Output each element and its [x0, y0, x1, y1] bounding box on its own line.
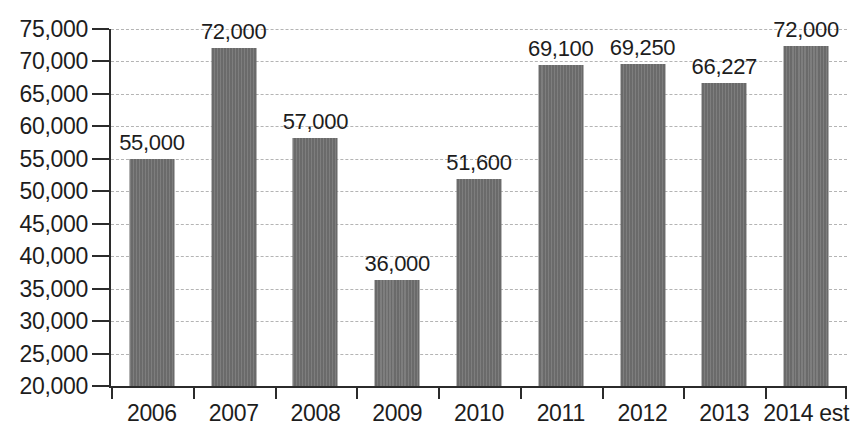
y-axis-tick-label: 55,000	[19, 145, 88, 172]
bar-chart: 75,00070,00065,00060,00055,00050,00045,0…	[0, 0, 851, 445]
bar-group: 51,600	[438, 29, 520, 386]
bar[interactable]	[784, 46, 829, 386]
y-axis-tick-label: 30,000	[19, 308, 88, 335]
bar-value-label: 72,000	[201, 19, 267, 45]
y-axis-tick-mark	[92, 158, 109, 160]
y-axis-tick-mark	[92, 28, 109, 30]
x-axis-tick-mark	[193, 386, 195, 399]
bar-group: 72,000	[765, 29, 847, 386]
y-axis-tick-label: 50,000	[19, 178, 88, 205]
x-axis-ticks	[111, 386, 847, 400]
y-axis-tick-mark	[92, 93, 109, 95]
x-axis-tick-mark	[520, 386, 522, 399]
x-axis-tick-mark	[845, 386, 847, 399]
y-axis-tick-label: 70,000	[19, 48, 88, 75]
y-axis-tick-mark	[92, 385, 109, 387]
y-axis-tick-label: 45,000	[19, 210, 88, 237]
bars-layer: 55,00072,00057,00036,00051,60069,10069,2…	[111, 29, 847, 386]
y-axis-tick-mark	[92, 255, 109, 257]
y-axis-tick-label: 40,000	[19, 243, 88, 270]
bar-group: 57,000	[275, 29, 357, 386]
y-axis-tick-mark	[92, 190, 109, 192]
y-axis-tick-mark	[92, 223, 109, 225]
y-axis-tick-label: 75,000	[19, 16, 88, 43]
x-axis-tick-mark	[275, 386, 277, 399]
bar-value-label: 66,227	[692, 54, 758, 80]
y-axis-tick-mark	[92, 320, 109, 322]
y-axis-tick-label: 60,000	[19, 113, 88, 140]
x-axis-tick-label: 2009	[372, 400, 422, 427]
y-axis-tick-label: 35,000	[19, 275, 88, 302]
x-axis-tick-label: 2013	[699, 400, 749, 427]
bar[interactable]	[538, 65, 583, 386]
bar-value-label: 69,100	[528, 36, 594, 62]
x-axis-tick-mark	[438, 386, 440, 399]
bar-group: 72,000	[193, 29, 275, 386]
y-axis-tick-mark	[92, 60, 109, 62]
bar-value-label: 69,250	[610, 35, 676, 61]
bar-group: 69,100	[520, 29, 602, 386]
x-axis-tick-label: 2010	[454, 400, 504, 427]
bar-value-label: 51,600	[446, 150, 512, 176]
x-axis-tick-label: 2007	[209, 400, 259, 427]
x-axis-tick-mark	[356, 386, 358, 399]
bar-value-label: 55,000	[119, 130, 185, 156]
bar[interactable]	[456, 179, 501, 386]
y-axis-tick-label: 65,000	[19, 80, 88, 107]
bar-group: 69,250	[602, 29, 684, 386]
bar[interactable]	[211, 48, 256, 386]
x-axis-tick-mark	[602, 386, 604, 399]
bar-group: 36,000	[356, 29, 438, 386]
x-axis-tick-mark	[683, 386, 685, 399]
bar[interactable]	[702, 83, 747, 386]
bar[interactable]	[129, 159, 174, 386]
bar-value-label: 57,000	[283, 109, 349, 135]
x-axis-tick-label: 2011	[537, 400, 585, 427]
x-axis-tick-label: 2006	[127, 400, 177, 427]
x-axis-tick-label: 2012	[618, 400, 668, 427]
y-axis-tick-mark	[92, 288, 109, 290]
y-axis-tick-label: 20,000	[19, 373, 88, 400]
bar-value-label: 36,000	[364, 251, 430, 277]
y-axis: 75,00070,00065,00060,00055,00050,00045,0…	[0, 0, 88, 445]
bar-group: 66,227	[683, 29, 765, 386]
bar[interactable]	[620, 64, 665, 386]
x-axis-tick-label: 2008	[290, 400, 340, 427]
bar[interactable]	[375, 280, 420, 386]
bar-group: 55,000	[111, 29, 193, 386]
y-axis-tick-label: 25,000	[19, 340, 88, 367]
bar[interactable]	[293, 138, 338, 386]
y-axis-tick-mark	[92, 353, 109, 355]
y-axis-tick-mark	[92, 125, 109, 127]
bar-value-label: 72,000	[773, 17, 839, 43]
x-axis-tick-label: 2014 est	[763, 400, 849, 427]
x-axis-tick-mark	[111, 386, 113, 399]
x-axis-tick-mark	[765, 386, 767, 399]
x-axis: 200620072008200920102011201220132014 est	[111, 400, 847, 445]
